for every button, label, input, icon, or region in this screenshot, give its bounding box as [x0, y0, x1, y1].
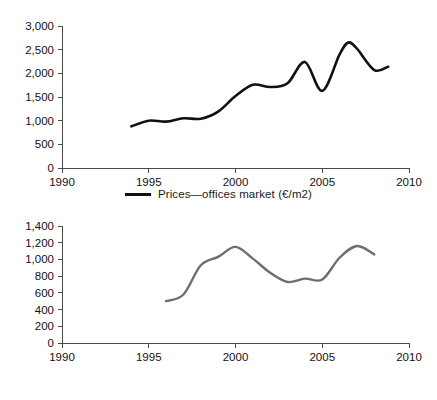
chart-panel-prices: 05001,0001,5002,0002,5003,00019901995200…	[0, 0, 437, 215]
x-tick-label: 2000	[223, 351, 249, 363]
x-tick-label: 2000	[223, 176, 249, 188]
legend-label-prices: Prices—offices market (€/m2)	[158, 188, 312, 201]
two-panel-line-chart-figure: 05001,0001,5002,0002,5003,00019901995200…	[0, 0, 437, 400]
y-tick-label: 1,000	[25, 253, 54, 265]
y-tick-label: 1,500	[25, 91, 54, 103]
y-tick-label: 2,500	[25, 44, 54, 56]
legend-prices: Prices—offices market (€/m2)	[0, 188, 437, 201]
prices-plot-area: 05001,0001,5002,0002,5003,00019901995200…	[0, 0, 437, 190]
y-tick-label: 1,400	[25, 220, 54, 232]
legend-line-swatch-prices	[125, 193, 151, 196]
x-tick-label: 1995	[136, 176, 162, 188]
x-tick-label: 1990	[49, 351, 75, 363]
y-tick-label: 500	[35, 138, 54, 150]
y-tick-label: 0	[48, 162, 54, 174]
y-tick-label: 0	[48, 337, 54, 349]
y-tick-label: 400	[35, 304, 54, 316]
x-tick-label: 2010	[396, 176, 422, 188]
series-line	[166, 246, 374, 301]
y-tick-label: 1,200	[25, 237, 54, 249]
y-tick-label: 600	[35, 287, 54, 299]
x-tick-label: 2010	[396, 351, 422, 363]
x-tick-label: 2005	[309, 351, 335, 363]
x-tick-label: 1995	[136, 351, 162, 363]
x-tick-label: 2005	[309, 176, 335, 188]
x-tick-label: 1990	[49, 176, 75, 188]
y-tick-label: 200	[35, 320, 54, 332]
y-tick-label: 2,000	[25, 67, 54, 79]
chart-panel-transactions: 02004006008001,0001,2001,400199019952000…	[0, 215, 437, 400]
y-tick-label: 800	[35, 270, 54, 282]
y-tick-label: 1,000	[25, 115, 54, 127]
series-line	[131, 42, 388, 126]
y-tick-label: 3,000	[25, 20, 54, 32]
transactions-plot-area: 02004006008001,0001,2001,400199019952000…	[0, 215, 437, 380]
